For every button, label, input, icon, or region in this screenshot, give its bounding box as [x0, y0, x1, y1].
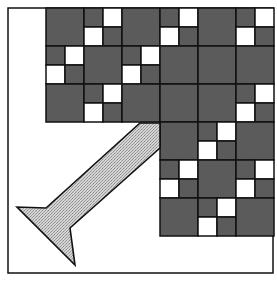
- patch-dark: [236, 84, 255, 103]
- patch-light: [179, 160, 198, 179]
- solid-cell: [198, 46, 236, 84]
- quilt-diagram: [0, 0, 277, 281]
- patch-light: [141, 46, 160, 65]
- patch-dark: [46, 46, 65, 65]
- solid-cell: [236, 198, 274, 236]
- patch-dark: [198, 122, 217, 141]
- patch-light: [84, 103, 103, 122]
- solid-cell: [198, 8, 236, 46]
- patch-light: [236, 103, 255, 122]
- patch-dark: [255, 179, 274, 198]
- patch-light: [236, 27, 255, 46]
- patch-dark: [255, 103, 274, 122]
- patch-dark: [179, 27, 198, 46]
- solid-cell: [122, 8, 160, 46]
- patch-dark: [65, 65, 84, 84]
- patch-light: [160, 179, 179, 198]
- patch-dark: [217, 141, 236, 160]
- patch-light: [198, 217, 217, 236]
- solid-cell: [122, 84, 160, 122]
- patch-light: [103, 8, 122, 27]
- patch-light: [255, 160, 274, 179]
- solid-cell: [160, 122, 198, 160]
- patch-dark: [103, 103, 122, 122]
- solid-cell: [160, 84, 198, 122]
- patch-light: [255, 8, 274, 27]
- solid-cell: [198, 160, 236, 198]
- solid-cell: [160, 46, 198, 84]
- patch-dark: [103, 27, 122, 46]
- patch-dark: [236, 160, 255, 179]
- patch-light: [217, 198, 236, 217]
- solid-cell: [160, 198, 198, 236]
- solid-cell: [46, 8, 84, 46]
- patch-light: [255, 84, 274, 103]
- solid-cell: [236, 46, 274, 84]
- arrow-icon: [17, 123, 160, 265]
- patch-dark: [122, 46, 141, 65]
- patch-dark: [84, 84, 103, 103]
- patch-light: [84, 27, 103, 46]
- patch-light: [103, 84, 122, 103]
- patch-light: [46, 65, 65, 84]
- patch-light: [217, 122, 236, 141]
- solid-cell: [46, 84, 84, 122]
- patch-light: [179, 8, 198, 27]
- quilt-figure: [0, 0, 277, 281]
- solid-cell: [198, 84, 236, 122]
- patch-dark: [160, 160, 179, 179]
- patch-dark: [160, 8, 179, 27]
- patch-dark: [179, 179, 198, 198]
- solid-cell: [236, 122, 274, 160]
- solid-cell: [84, 46, 122, 84]
- patch-dark: [141, 65, 160, 84]
- patch-dark: [198, 198, 217, 217]
- patch-light: [236, 179, 255, 198]
- patch-light: [65, 46, 84, 65]
- patch-dark: [236, 8, 255, 27]
- patch-light: [160, 27, 179, 46]
- patch-dark: [217, 217, 236, 236]
- patch-light: [198, 141, 217, 160]
- patch-dark: [255, 27, 274, 46]
- patch-dark: [84, 8, 103, 27]
- patch-light: [122, 65, 141, 84]
